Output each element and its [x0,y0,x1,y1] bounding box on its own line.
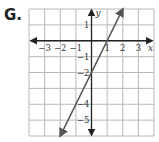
y-tick-label: −5 [77,115,90,125]
x-tick-label: 3 [136,43,141,53]
y-tick-label: 1 [84,20,89,30]
x-tick-label: −2 [54,43,67,53]
x-tick-label: −3 [38,43,51,53]
coordinate-plane: −3−2−11231−1−2−4−5xy [0,0,159,142]
x-tick-label: 2 [120,43,125,53]
x-axis-label: x [148,43,153,53]
y-tick-label: −1 [77,52,90,62]
y-axis-label: y [95,8,102,18]
y-tick-label: −4 [77,99,90,109]
tick-labels: −3−2−11231−1−2−4−5xy [38,8,153,125]
y-tick-label: −2 [77,68,90,78]
